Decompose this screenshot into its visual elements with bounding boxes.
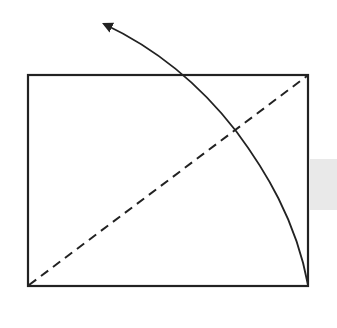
dashed-diagonal [29,76,307,285]
fold-diagram [0,0,337,328]
curved-arrow [104,24,308,285]
